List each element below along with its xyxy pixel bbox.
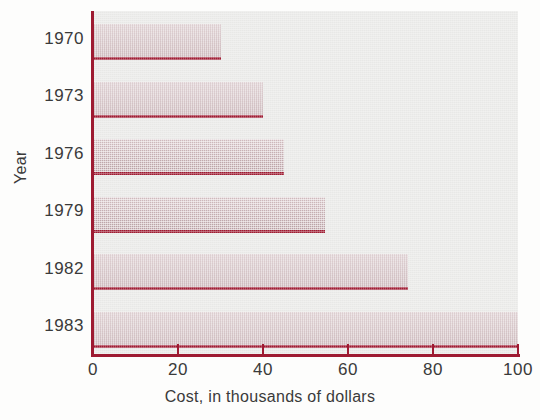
bar-1979 [93,197,325,230]
y-axis-tick-label-1983: 1983 [44,316,84,336]
bar-band [93,299,518,356]
y-axis-title: Year [12,154,30,184]
bar-chart: 020406080100 197019731976197919821983 Co… [0,0,540,420]
x-axis-tick-label: 60 [338,360,358,380]
y-axis-tick-label-1976: 1976 [44,144,84,164]
bar-band [93,69,518,126]
x-axis-title: Cost, in thousands of dollars [0,388,540,406]
bar-baseline-1970 [93,57,221,60]
bar-band [93,241,518,298]
x-axis-tick [517,344,519,355]
x-axis-tick-label: 80 [423,360,443,380]
bar-1982 [93,254,408,287]
y-axis-tick-label-1979: 1979 [44,201,84,221]
bar-1976 [93,139,284,172]
y-axis-tick-label-1970: 1970 [44,29,84,49]
x-axis-tick-label: 100 [503,360,533,380]
bar-baseline-1983 [93,345,518,348]
x-axis-line [91,354,520,357]
bar-1973 [93,82,263,115]
bar-band [93,11,518,68]
bar-1983 [93,312,518,345]
x-axis-tick [177,344,179,355]
bar-band [93,184,518,241]
bar-baseline-1976 [93,172,284,175]
x-axis-tick-label: 0 [88,360,98,380]
bar-baseline-1973 [93,115,263,118]
x-axis-tick-label: 20 [168,360,188,380]
x-axis-tick [347,344,349,355]
plot-area [93,11,518,356]
y-axis-tick-label-1982: 1982 [44,259,84,279]
bar-baseline-1979 [93,230,325,233]
y-axis-tick-label-1973: 1973 [44,86,84,106]
x-axis-tick [432,344,434,355]
bar-baseline-1982 [93,287,408,290]
bar-band [93,126,518,183]
bar-1970 [93,24,221,57]
x-axis-tick-label: 40 [253,360,273,380]
y-axis-line [91,11,94,356]
x-axis-tick [262,344,264,355]
